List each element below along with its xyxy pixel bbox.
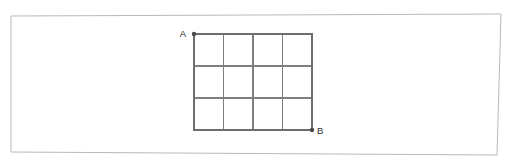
vertex-dot-a bbox=[192, 32, 196, 36]
diagram-canvas: AB bbox=[0, 0, 506, 167]
vertex-dot-b bbox=[310, 128, 314, 132]
vertex-markers-group: AB bbox=[180, 28, 324, 136]
outer-frame-border bbox=[11, 14, 501, 155]
vertex-label-b: B bbox=[317, 125, 323, 136]
vertex-label-a: A bbox=[180, 28, 187, 39]
figure-svg: AB bbox=[0, 0, 506, 167]
grid-group bbox=[194, 34, 312, 130]
